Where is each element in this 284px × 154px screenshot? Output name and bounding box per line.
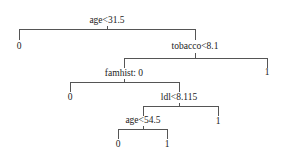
split-tobacco [124,53,267,68]
split-root [19,26,195,40]
leaf-ldl-right: 1 [216,116,221,126]
node-age-54.5: age<54.5 [125,115,160,125]
decision-tree: age<31.5 0 tobacco<8.1 1 famhist: 0 0 ld… [0,0,284,154]
leaf-age2-right: 1 [165,139,170,149]
node-famhist-0: famhist: 0 [105,68,144,78]
leaf-root-left: 0 [17,41,22,51]
split-famhist [70,79,179,92]
leaf-age2-left: 0 [116,139,121,149]
leaf-tobacco-right: 1 [265,67,270,77]
node-ldl-8.115: ldl<8.115 [161,92,198,102]
split-age2 [118,126,167,139]
leaf-famhist-left: 0 [68,92,73,102]
node-age-31.5: age<31.5 [89,15,124,25]
node-tobacco-8.1: tobacco<8.1 [172,41,219,51]
